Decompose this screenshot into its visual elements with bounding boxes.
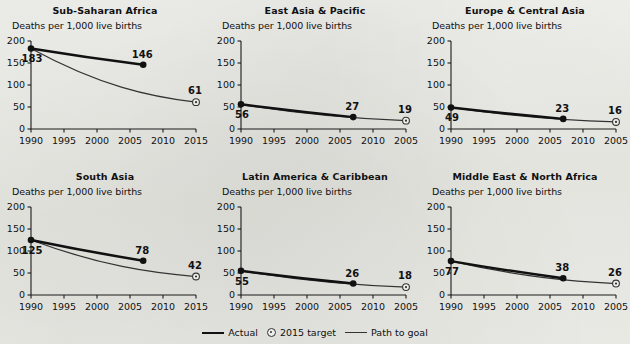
legend-label-path: Path to goal <box>371 327 428 338</box>
chart-panel-europe-central-asia: Europe & Central Asia Deaths per 1,000 l… <box>420 0 630 166</box>
svg-text:2005: 2005 <box>328 301 352 312</box>
chart-title: East Asia & Pacific <box>210 5 420 16</box>
svg-text:1990: 1990 <box>19 301 43 312</box>
legend-label-actual: Actual <box>228 327 258 338</box>
svg-text:1990: 1990 <box>19 135 43 146</box>
svg-text:0: 0 <box>229 123 235 134</box>
plot-area: 0501001502001990199520002005201020151257… <box>0 199 210 327</box>
plot-area: 0501001502001990199520002005201020054923… <box>420 33 630 161</box>
svg-text:2010: 2010 <box>571 301 595 312</box>
y-axis-caption: Deaths per 1,000 live births <box>222 20 420 31</box>
svg-text:2000: 2000 <box>85 301 109 312</box>
svg-text:1990: 1990 <box>439 135 463 146</box>
chart-svg-4: 0501001502001990199520002005201020055526… <box>210 199 420 327</box>
svg-text:150: 150 <box>427 57 445 68</box>
svg-text:2010: 2010 <box>151 135 175 146</box>
svg-text:0: 0 <box>19 289 25 300</box>
svg-text:2010: 2010 <box>151 301 175 312</box>
chart-legend: Actual 2015 target Path to goal <box>0 327 630 338</box>
svg-text:2000: 2000 <box>295 301 319 312</box>
svg-text:55: 55 <box>235 276 249 287</box>
plot-area: 0501001502001990199520002005201020055526… <box>210 199 420 327</box>
small-multiples-grid: Sub-Saharan Africa Deaths per 1,000 live… <box>0 0 630 318</box>
svg-text:2005: 2005 <box>118 135 142 146</box>
chart-svg-3: 0501001502001990199520002005201020151257… <box>0 199 210 327</box>
chart-title: Europe & Central Asia <box>420 5 630 16</box>
svg-text:150: 150 <box>427 223 445 234</box>
chart-title: Sub-Saharan Africa <box>0 5 210 16</box>
svg-text:100: 100 <box>7 79 25 90</box>
svg-text:146: 146 <box>132 49 153 60</box>
svg-text:49: 49 <box>445 112 459 123</box>
svg-text:2015: 2015 <box>184 135 208 146</box>
svg-text:200: 200 <box>427 35 445 46</box>
path-line-swatch <box>345 332 367 333</box>
svg-text:2005: 2005 <box>604 135 628 146</box>
svg-text:1990: 1990 <box>229 135 253 146</box>
y-axis-caption: Deaths per 1,000 live births <box>12 20 210 31</box>
y-axis-caption: Deaths per 1,000 live births <box>12 186 210 197</box>
svg-text:42: 42 <box>188 260 202 271</box>
svg-text:0: 0 <box>229 289 235 300</box>
svg-text:0: 0 <box>439 123 445 134</box>
svg-text:100: 100 <box>217 79 235 90</box>
svg-text:2010: 2010 <box>361 301 385 312</box>
svg-text:1995: 1995 <box>262 301 286 312</box>
svg-text:2010: 2010 <box>361 135 385 146</box>
chart-panel-latin-america-caribbean: Latin America & Caribbean Deaths per 1,0… <box>210 166 420 318</box>
y-axis-caption: Deaths per 1,000 live births <box>432 20 630 31</box>
chart-title: Latin America & Caribbean <box>210 171 420 182</box>
svg-text:1995: 1995 <box>472 301 496 312</box>
plot-area: 0501001502001990199520002005201020057738… <box>420 199 630 327</box>
svg-text:150: 150 <box>7 223 25 234</box>
svg-text:2005: 2005 <box>328 135 352 146</box>
svg-text:200: 200 <box>217 35 235 46</box>
svg-text:2005: 2005 <box>538 135 562 146</box>
svg-text:50: 50 <box>13 267 25 278</box>
svg-text:16: 16 <box>608 105 622 116</box>
svg-text:150: 150 <box>217 57 235 68</box>
legend-item-path-to-goal: Path to goal <box>345 327 428 338</box>
svg-text:125: 125 <box>22 245 43 256</box>
legend-item-actual: Actual <box>202 327 258 338</box>
svg-text:0: 0 <box>19 123 25 134</box>
svg-text:1995: 1995 <box>52 135 76 146</box>
svg-text:26: 26 <box>608 267 622 278</box>
plot-area: 0501001502001990199520002005201020151831… <box>0 33 210 161</box>
svg-text:50: 50 <box>223 267 235 278</box>
legend-label-target: 2015 target <box>280 327 336 338</box>
svg-text:183: 183 <box>22 53 43 64</box>
chart-svg-2: 0501001502001990199520002005201020054923… <box>420 33 630 161</box>
svg-text:2000: 2000 <box>505 301 529 312</box>
svg-text:2010: 2010 <box>571 135 595 146</box>
svg-text:2005: 2005 <box>604 301 628 312</box>
actual-line-swatch <box>202 332 224 334</box>
chart-svg-1: 0501001502001990199520002005201020055627… <box>210 33 420 161</box>
svg-text:56: 56 <box>235 109 249 120</box>
svg-text:2000: 2000 <box>295 135 319 146</box>
svg-text:200: 200 <box>427 201 445 212</box>
chart-panel-sub-saharan-africa: Sub-Saharan Africa Deaths per 1,000 live… <box>0 0 210 166</box>
svg-text:23: 23 <box>555 103 569 114</box>
svg-text:27: 27 <box>345 101 359 112</box>
svg-text:2005: 2005 <box>118 301 142 312</box>
svg-text:1995: 1995 <box>472 135 496 146</box>
svg-text:2005: 2005 <box>538 301 562 312</box>
svg-text:18: 18 <box>398 270 412 281</box>
svg-text:0: 0 <box>439 289 445 300</box>
chart-title: South Asia <box>0 171 210 182</box>
svg-text:2000: 2000 <box>85 135 109 146</box>
svg-text:100: 100 <box>427 79 445 90</box>
svg-text:19: 19 <box>398 104 412 115</box>
svg-text:200: 200 <box>7 35 25 46</box>
chart-panel-east-asia-pacific: East Asia & Pacific Deaths per 1,000 liv… <box>210 0 420 166</box>
y-axis-caption: Deaths per 1,000 live births <box>222 186 420 197</box>
chart-panel-south-asia: South Asia Deaths per 1,000 live births … <box>0 166 210 318</box>
svg-text:1990: 1990 <box>439 301 463 312</box>
svg-text:1995: 1995 <box>52 301 76 312</box>
svg-text:1990: 1990 <box>229 301 253 312</box>
svg-text:200: 200 <box>217 201 235 212</box>
plot-area: 0501001502001990199520002005201020055627… <box>210 33 420 161</box>
svg-text:150: 150 <box>217 223 235 234</box>
svg-text:50: 50 <box>433 267 445 278</box>
